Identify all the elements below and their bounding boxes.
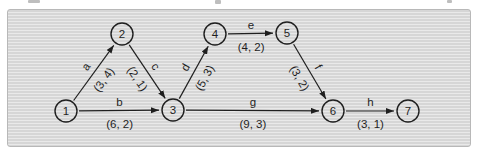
edge-label-c: c (149, 61, 162, 73)
edge-cost-g: (9, 3) (239, 118, 266, 130)
edge-label-b: b (116, 96, 122, 108)
node-4: 4 (204, 23, 226, 45)
edge-label-h: h (367, 96, 373, 108)
edge-line-e (228, 33, 273, 34)
node-label: 1 (63, 105, 69, 117)
edge-label-d: d (178, 61, 192, 72)
node-6: 6 (322, 100, 344, 122)
edge-cost-h: (3, 1) (357, 118, 384, 130)
node-label: 6 (330, 105, 336, 117)
node-1: 1 (55, 100, 77, 122)
node-label: 5 (284, 27, 290, 39)
node-7: 7 (397, 100, 419, 122)
edge-label-e: e (248, 19, 254, 31)
edge-cost-a: (3, 4) (91, 65, 117, 94)
network-diagram: a(3, 4)b(6, 2)c(2, 1)d(5, 3)e(4, 2)f(3, … (0, 0, 479, 151)
edge-cost-b: (6, 2) (106, 118, 133, 130)
node-5: 5 (276, 22, 298, 44)
node-label: 2 (119, 28, 125, 40)
node-2: 2 (111, 23, 133, 45)
edge-label-g: g (250, 96, 256, 108)
edge-cost-e: (4, 2) (238, 41, 265, 53)
node-label: 7 (405, 105, 411, 117)
edge-line-g (186, 110, 319, 111)
node-label: 3 (170, 104, 176, 116)
node-3: 3 (162, 99, 184, 121)
edge-label-f: f (313, 63, 325, 73)
edge-cost-c: (2, 1) (125, 64, 150, 93)
edge-line-b (79, 110, 159, 111)
edge-label-a: a (79, 60, 93, 73)
node-label: 4 (212, 28, 219, 40)
